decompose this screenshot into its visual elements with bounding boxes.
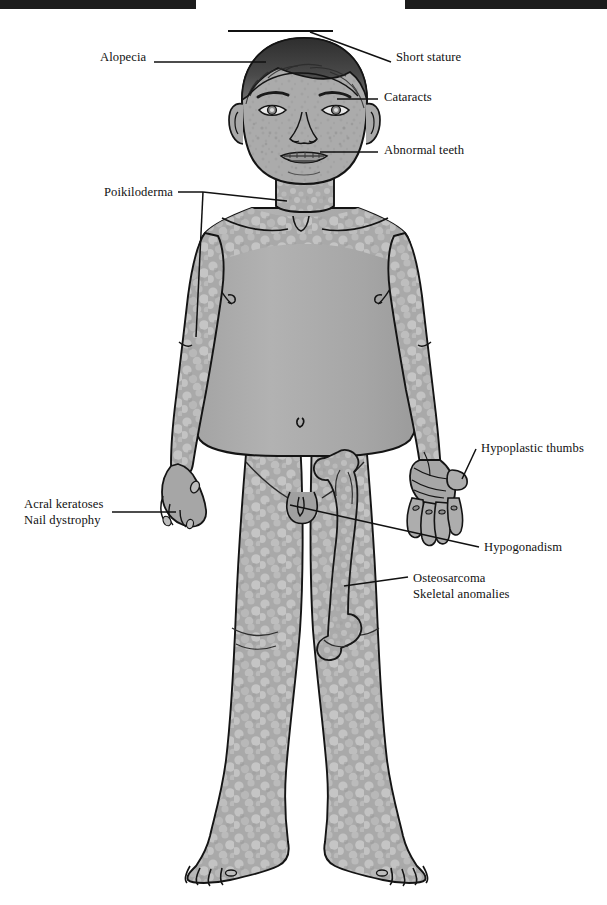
label-skeletal-anomalies-line2: Skeletal anomalies [413,587,510,603]
label-hypoplastic-thumbs: Hypoplastic thumbs [481,441,584,456]
label-hypogonadism: Hypogonadism [484,540,562,555]
left-big-toenail [226,870,237,876]
poikiloderma-leader-branch-neck [203,192,287,201]
label-nail-dystrophy-line2: Nail dystrophy [24,513,103,529]
label-acral-keratoses: Acral keratoses Nail dystrophy [24,497,103,528]
right-hand [407,452,467,545]
left-eye [259,106,286,116]
hypoplastic-thumbs-leader [462,449,476,479]
body-group [161,38,467,886]
left-hand [161,464,206,529]
left-leg [187,430,302,883]
illustration-page: Alopecia Short stature Cataracts Abnorma… [0,0,607,905]
right-cataract-opacity [334,108,338,112]
label-acral-keratoses-line1: Acral keratoses [24,497,103,513]
label-alopecia: Alopecia [100,50,146,65]
label-poikiloderma: Poikiloderma [104,185,173,200]
right-eye [322,106,349,116]
label-osteosarcoma: Osteosarcoma Skeletal anomalies [413,571,510,602]
label-abnormal-teeth: Abnormal teeth [384,143,464,158]
label-cataracts: Cataracts [384,90,432,105]
label-short-stature: Short stature [396,50,461,65]
right-ear [366,104,380,144]
left-ear [229,104,243,144]
label-osteosarcoma-line1: Osteosarcoma [413,571,510,587]
right-big-toenail [377,870,388,876]
left-cataract-opacity [270,108,274,112]
